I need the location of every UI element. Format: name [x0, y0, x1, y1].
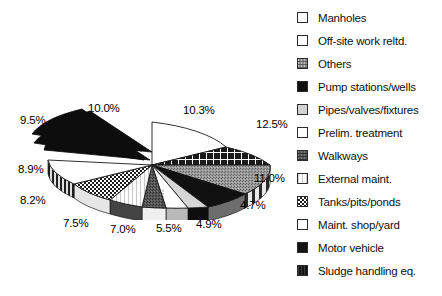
legend-item-others[interactable]: Others: [297, 52, 442, 75]
legend-swatch-manholes: [297, 12, 308, 23]
pie-chart-figure: 10.3% 12.5% 11.0% 4.7% 4.9% 5.5% 7.0% 7.…: [0, 0, 442, 296]
legend-item-motor-vehicle[interactable]: Motor vehicle: [297, 236, 442, 259]
legend-item-offsite-work[interactable]: Off-site work reltd.: [297, 29, 442, 52]
legend-item-pipes-valves[interactable]: Pipes/valves/fixtures: [297, 98, 442, 121]
legend-swatch-sludge-handling: [297, 265, 308, 276]
data-label-prelim-treatment: 5.5%: [156, 222, 181, 234]
side-wall-prelim: [142, 207, 166, 220]
legend-swatch-prelim-treatment: [297, 127, 308, 138]
data-label-walkways: 7.0%: [110, 223, 135, 235]
legend-item-external-maint[interactable]: External maint.: [297, 167, 442, 190]
legend-label-sludge-handling: Sludge handling eq.: [318, 265, 416, 277]
legend-label-others: Others: [318, 58, 351, 70]
data-label-offsite-work: 12.5%: [256, 118, 288, 130]
legend-swatch-maint-shop-yard: [297, 219, 308, 230]
legend-label-offsite-work: Off-site work reltd.: [318, 35, 407, 47]
legend-item-maint-shop-yard[interactable]: Maint. shop/yard: [297, 213, 442, 236]
data-label-tanks-pits-ponds: 8.2%: [20, 194, 45, 206]
data-label-maint-shop-yard: 8.9%: [18, 163, 43, 175]
legend-label-walkways: Walkways: [318, 150, 368, 162]
legend-label-tanks-pits-ponds: Tanks/pits/ponds: [318, 196, 400, 208]
pie-exploded-slices: [32, 109, 152, 160]
legend-label-motor-vehicle: Motor vehicle: [318, 242, 384, 254]
data-label-pump-stations: 4.7%: [240, 199, 265, 211]
legend-swatch-others: [297, 58, 308, 69]
legend-swatch-tanks-pits-ponds: [297, 196, 308, 207]
legend-label-pipes-valves: Pipes/valves/fixtures: [318, 104, 419, 116]
chart-legend: Manholes Off-site work reltd. Others Pum…: [297, 6, 442, 282]
legend-item-prelim-treatment[interactable]: Prelim. treatment: [297, 121, 442, 144]
data-label-others: 11.0%: [254, 172, 285, 184]
legend-item-pump-stations[interactable]: Pump stations/wells: [297, 75, 442, 98]
legend-item-sludge-handling[interactable]: Sludge handling eq.: [297, 259, 442, 282]
legend-label-manholes: Manholes: [318, 12, 366, 24]
data-label-sludge-handling: 9.5%: [20, 114, 45, 126]
legend-swatch-pump-stations: [297, 81, 308, 92]
legend-swatch-walkways: [297, 150, 308, 161]
legend-label-pump-stations: Pump stations/wells: [318, 81, 416, 93]
data-label-external-maint: 7.5%: [63, 217, 88, 229]
legend-label-external-maint: External maint.: [318, 173, 392, 185]
legend-swatch-pipes-valves: [297, 104, 308, 115]
legend-item-manholes[interactable]: Manholes: [297, 6, 442, 29]
legend-label-prelim-treatment: Prelim. treatment: [318, 127, 402, 139]
legend-swatch-external-maint: [297, 173, 308, 184]
data-label-manholes: 10.3%: [183, 104, 215, 116]
side-wall-pipes: [166, 208, 188, 220]
legend-item-walkways[interactable]: Walkways: [297, 144, 442, 167]
legend-item-tanks-pits-ponds[interactable]: Tanks/pits/ponds: [297, 190, 442, 213]
data-label-motor-vehicle: 10.0%: [88, 102, 120, 114]
legend-swatch-offsite-work: [297, 35, 308, 46]
legend-label-maint-shop-yard: Maint. shop/yard: [318, 219, 400, 231]
legend-swatch-motor-vehicle: [297, 242, 308, 253]
data-label-pipes-valves: 4.9%: [196, 218, 221, 230]
